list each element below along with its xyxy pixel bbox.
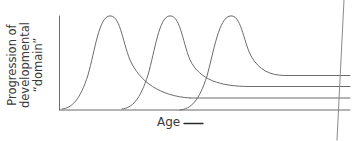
- y-axis-label: Progression of developmental “domain”: [6, 22, 45, 108]
- curve-domain-2: [122, 16, 250, 109]
- x-axis-label: Age: [157, 115, 180, 129]
- right-arrow-icon: [184, 120, 209, 127]
- curve-domain-1: [62, 16, 190, 109]
- y-axis-label-line-3: “domain”: [32, 22, 45, 108]
- curve-domain-3: [180, 16, 285, 110]
- developmental-domains-diagram: Progression of developmental “domain” Ag…: [0, 0, 359, 141]
- right-cut-line: [337, 0, 344, 140]
